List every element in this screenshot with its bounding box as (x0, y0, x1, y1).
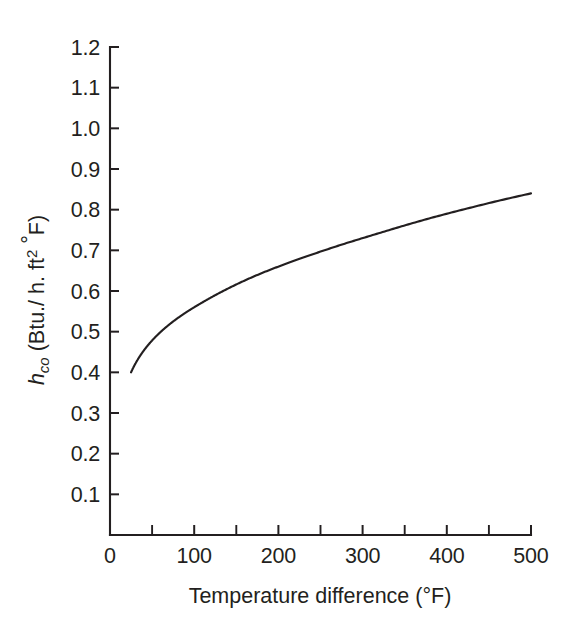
x-tick-label-500: 500 (513, 544, 549, 568)
y-tick-label-1.0: 1.0 (71, 117, 101, 141)
y-tick-label-0.9: 0.9 (71, 158, 100, 182)
chart-plot-area: 0.10.20.30.40.50.60.70.80.91.01.11.2 010… (0, 0, 571, 631)
y-axis-subscript: co (35, 357, 52, 373)
x-axis-title: Temperature difference (°F) (189, 584, 452, 608)
y-tick-label-0.7: 0.7 (71, 239, 100, 263)
x-axis-tick-labels: 0100200300400500 (104, 544, 549, 568)
y-tick-label-0.6: 0.6 (71, 280, 101, 304)
y-axis-title-group: hco (Btu./ h. ft2 °F) (18, 215, 52, 385)
x-tick-label-400: 400 (429, 544, 465, 568)
x-tick-label-100: 100 (177, 544, 213, 568)
x-axis-ticks (110, 525, 531, 535)
x-tick-label-300: 300 (345, 544, 381, 568)
y-tick-label-0.2: 0.2 (71, 442, 100, 466)
y-axis-units-exponent: 2 (23, 250, 40, 258)
data-curve-hco (131, 193, 531, 372)
x-tick-label-200: 200 (261, 544, 297, 568)
y-tick-label-0.3: 0.3 (71, 402, 101, 426)
y-tick-label-0.1: 0.1 (71, 483, 100, 507)
x-tick-label-0: 0 (104, 544, 116, 568)
y-tick-label-1.1: 1.1 (71, 76, 100, 100)
y-tick-label-0.8: 0.8 (71, 198, 101, 222)
y-axis-ticks (110, 47, 119, 494)
axis-lines (110, 47, 531, 535)
svg-text:hco (Btu./ h. ft2 °F): hco (Btu./ h. ft2 °F) (18, 215, 52, 385)
y-axis-units-degree: ° (18, 235, 42, 250)
y-axis-tick-labels: 0.10.20.30.40.50.60.70.80.91.01.11.2 (71, 36, 101, 507)
y-axis-units-close: F) (25, 215, 49, 235)
y-axis-units-open: (Btu./ h. ft (25, 258, 49, 357)
y-tick-label-0.4: 0.4 (71, 361, 101, 385)
y-tick-label-1.2: 1.2 (71, 36, 100, 60)
y-axis-symbol: h (25, 373, 49, 385)
y-tick-label-0.5: 0.5 (71, 320, 101, 344)
chart-figure: 0.10.20.30.40.50.60.70.80.91.01.11.2 010… (0, 0, 571, 631)
